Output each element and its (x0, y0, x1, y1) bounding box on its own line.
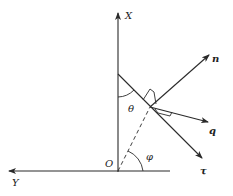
theta-arc (118, 90, 134, 97)
x-axis-label: X (124, 10, 133, 21)
n-label: n (212, 53, 219, 64)
theta-label: θ (128, 103, 134, 114)
diagram-canvas: X Y O n q τ θ φ (0, 0, 233, 196)
q-label: q (209, 125, 216, 136)
phi-arc (128, 151, 143, 171)
phi-label: φ (146, 151, 153, 162)
tau-label: τ (200, 165, 207, 176)
y-axis-label: Y (12, 177, 20, 188)
n-vector (150, 55, 209, 107)
origin-label: O (105, 158, 113, 169)
right-angle-marker-n (143, 89, 156, 104)
